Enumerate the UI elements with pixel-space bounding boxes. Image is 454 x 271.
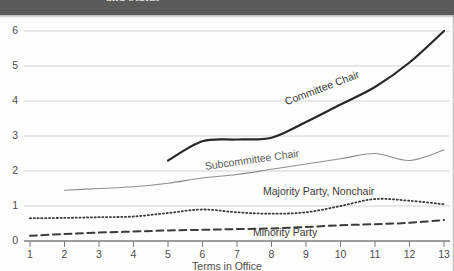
gridlines — [24, 31, 450, 206]
x-axis-tick-label: 5 — [159, 248, 177, 260]
y-axis-tick-label: 6 — [4, 24, 18, 36]
series-line — [30, 199, 444, 218]
x-axis-tick-label: 10 — [332, 248, 350, 260]
y-axis-tick-label: 2 — [4, 164, 18, 176]
y-axis-tick-label: 3 — [4, 129, 18, 141]
x-axis-title: Terms in Office — [0, 260, 454, 271]
x-axis-tick-label: 1 — [21, 248, 39, 260]
y-axis-tick-label: 1 — [4, 199, 18, 211]
x-axis-tick-label: 11 — [366, 248, 384, 260]
series-label: Minority Party — [253, 226, 317, 238]
x-axis-tick-label: 12 — [401, 248, 419, 260]
x-axis-tick-label: 4 — [125, 248, 143, 260]
y-axis-tick-label: 0 — [4, 234, 18, 246]
x-axis-tick-label: 3 — [90, 248, 108, 260]
series-paths — [30, 31, 444, 236]
x-axis-tick-label: 6 — [194, 248, 212, 260]
series-label: Majority Party, Nonchair — [263, 185, 374, 197]
x-axis-tick-label: 7 — [228, 248, 246, 260]
figure-page: and Status 6543210 12345678910111213 Com… — [0, 0, 454, 271]
chart-canvas — [0, 0, 454, 271]
line-chart: 6543210 12345678910111213 Committee Chai… — [0, 0, 454, 271]
x-axis-tick-label: 9 — [297, 248, 315, 260]
series-line — [30, 220, 444, 236]
x-axis-tick-label: 13 — [435, 248, 453, 260]
x-axis-tick-label: 8 — [263, 248, 281, 260]
x-axis-ticks — [30, 241, 444, 247]
x-axis-tick-label: 2 — [56, 248, 74, 260]
y-axis-tick-label: 4 — [4, 94, 18, 106]
y-axis-tick-label: 5 — [4, 59, 18, 71]
